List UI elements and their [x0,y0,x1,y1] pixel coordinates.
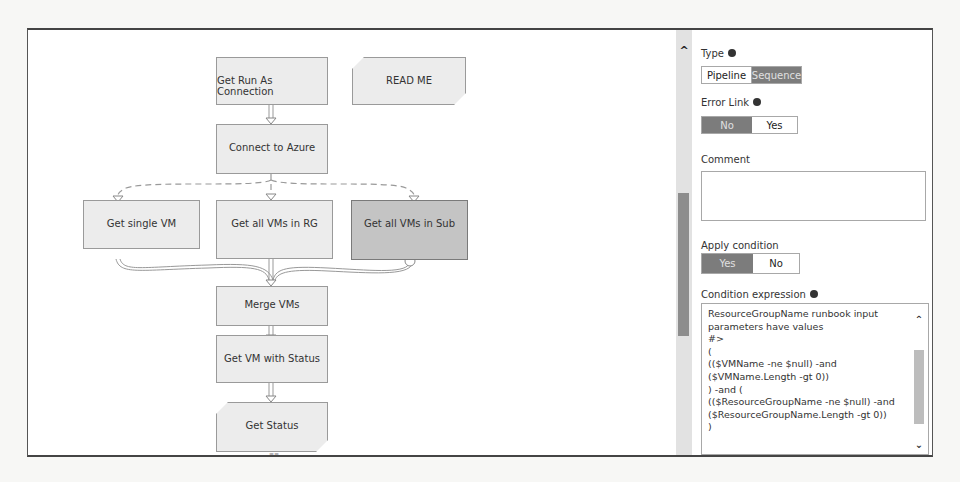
error-link-label: Error Link [701,97,761,108]
node-label: Get single VM [107,218,176,229]
type-toggle[interactable]: Pipeline Sequence [701,66,802,84]
workflow-canvas[interactable]: == Get Run As Connection READ ME Connect… [28,30,674,455]
scrollbar-thumb[interactable] [914,350,924,424]
node-merge-vms[interactable]: Merge VMs [216,286,328,326]
condition-expression-editor[interactable]: ResourceGroupName runbook input paramete… [701,303,929,455]
canvas-scrollbar[interactable]: ^ [676,30,692,455]
comment-label: Comment [701,154,750,165]
error-link-toggle[interactable]: No Yes [701,116,798,134]
error-link-option-no[interactable]: No [702,117,752,133]
node-get-all-vms-in-rg[interactable]: Get all VMs in RG [216,200,333,259]
node-get-vm-with-status[interactable]: Get VM with Status [216,335,328,383]
apply-condition-option-no[interactable]: No [753,254,799,273]
node-get-run-as-connection[interactable]: Get Run As Connection [216,57,328,105]
runbook-editor-window: == Get Run As Connection READ ME Connect… [27,28,933,457]
node-read-me[interactable]: READ ME [352,57,466,105]
condition-expression-scrollbar[interactable]: ⌃ ⌄ [912,314,926,450]
apply-condition-option-yes[interactable]: Yes [702,254,753,273]
node-label: READ ME [386,75,432,86]
node-label: Connect to Azure [229,142,315,153]
condition-expression-label: Condition expression [701,289,818,300]
type-option-pipeline[interactable]: Pipeline [702,67,752,83]
node-label: Merge VMs [244,299,299,310]
node-label: Get Run As Connection [217,75,327,97]
node-label: Get Status [246,420,299,431]
type-label: Type [701,48,736,59]
node-label: Get VM with Status [224,353,320,364]
node-connect-to-azure[interactable]: Connect to Azure [216,124,328,174]
apply-condition-toggle[interactable]: Yes No [701,253,800,274]
node-label: Get all VMs in RG [231,218,318,229]
apply-condition-label: Apply condition [701,240,779,251]
info-icon[interactable] [810,290,818,298]
comment-input[interactable] [701,171,926,221]
scrollbar-thumb[interactable] [678,193,689,336]
chevron-down-icon[interactable]: ⌄ [912,439,926,450]
scroll-up-icon[interactable]: ^ [676,44,692,57]
node-get-all-vms-in-sub[interactable]: Get all VMs in Sub [351,200,468,260]
node-get-status[interactable]: Get Status [216,402,328,452]
info-icon[interactable] [753,98,761,106]
node-label: Get all VMs in Sub [364,218,455,229]
type-option-sequence[interactable]: Sequence [752,67,801,83]
info-icon[interactable] [728,49,736,57]
properties-panel: Type Pipeline Sequence Error Link No Yes… [698,30,932,455]
error-link-option-yes[interactable]: Yes [752,117,797,133]
chevron-up-icon[interactable]: ⌃ [912,314,926,325]
node-get-single-vm[interactable]: Get single VM [83,200,200,249]
condition-expression-text[interactable]: ResourceGroupName runbook input paramete… [708,308,906,434]
